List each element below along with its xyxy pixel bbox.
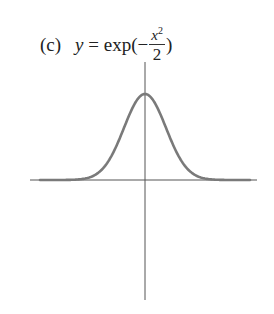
gaussian-figure: (c)y = exp(−x22) xyxy=(0,0,274,314)
plot-area xyxy=(0,0,274,314)
